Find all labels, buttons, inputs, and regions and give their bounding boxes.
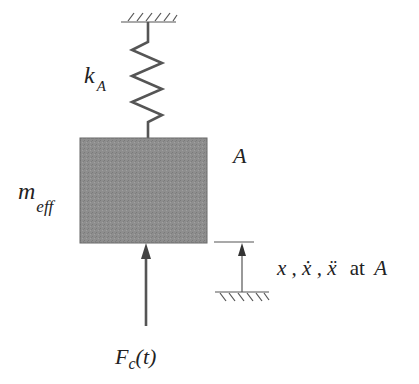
top-ground-icon [121,13,177,22]
force-symbol: F [115,344,128,369]
point-label: A [233,143,246,169]
spring-icon [132,22,162,138]
force-arrow-icon [141,243,151,326]
mass-subscript: eff [36,197,53,216]
spring-constant-label: kA [84,62,104,89]
mass-label: meff [18,178,52,205]
spring-constant-subscript: A [97,78,106,94]
mass-block [80,138,207,243]
bottom-ground-icon [215,292,269,301]
spring-constant-symbol: k [84,62,95,88]
motion-label: x , ẋ , ẍ at A [277,256,387,281]
displacement-arrow-icon [214,242,254,292]
motion-point: A [374,256,387,280]
mass-symbol: m [18,178,35,204]
force-subscript: c [128,355,135,372]
force-argument: (t) [136,344,157,369]
motion-at-text: at [350,256,365,280]
spring-mass-diagram [0,0,419,384]
force-label: Fc(t) [115,344,156,370]
motion-variables: x , ẋ , ẍ [277,256,336,280]
